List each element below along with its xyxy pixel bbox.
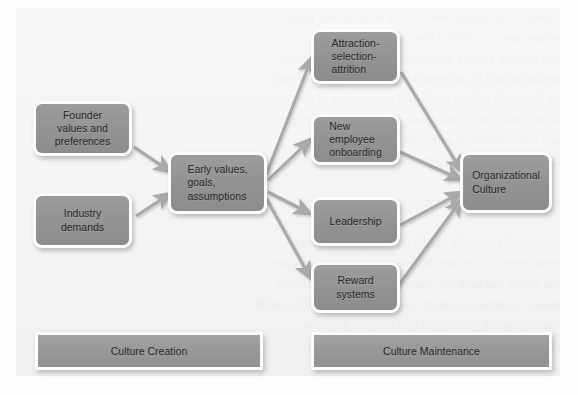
node-founder-values-and-preferences[interactable]: Foundervalues andpreferences (33, 101, 132, 156)
node-attraction-selection-attrition[interactable]: Attraction-selection-attrition (311, 29, 400, 84)
node-label: Foundervalues andpreferences (49, 109, 116, 149)
edge-founder-to-early (134, 147, 171, 172)
node-early-values-goals-assumptions[interactable]: Early values,goals,assumptions (168, 152, 267, 214)
node-label: Rewardsystems (330, 274, 381, 300)
banner-label: Culture Maintenance (383, 345, 480, 357)
node-label: Newemployeeonboarding (323, 120, 388, 160)
node-industry-demands[interactable]: Industrydemands (33, 193, 132, 248)
edge-early-to-onboarding (268, 139, 311, 180)
edge-leadership-to-orgculture (400, 192, 462, 225)
edge-industry-to-early (136, 193, 171, 216)
node-label: OrganizationalCulture (466, 169, 546, 195)
edge-reward-to-orgculture (395, 199, 462, 290)
node-leadership[interactable]: Leadership (311, 197, 400, 246)
edge-early-to-asa (266, 57, 312, 175)
node-label: Leadership (324, 215, 388, 228)
figure-canvas: values to the outside world. They were t… (0, 0, 578, 395)
banner-label: Culture Creation (111, 345, 187, 357)
node-label: Early values,goals,assumptions (181, 163, 253, 203)
banner-culture-maintenance[interactable]: Culture Maintenance (311, 332, 552, 370)
node-new-employee-onboarding[interactable]: Newemployeeonboarding (311, 114, 400, 165)
node-label: Attraction-selection-attrition (326, 37, 386, 77)
banner-culture-creation[interactable]: Culture Creation (35, 332, 263, 370)
node-reward-systems[interactable]: Rewardsystems (311, 262, 400, 313)
node-label: Industrydemands (55, 207, 110, 233)
node-organizational-culture[interactable]: OrganizationalCulture (460, 152, 552, 213)
